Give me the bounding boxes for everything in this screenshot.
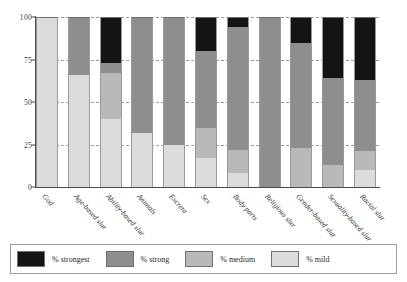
legend-item[interactable]: % mild (271, 251, 329, 267)
bar-segment-strongest (195, 17, 217, 51)
bar-segment-strong (227, 27, 249, 149)
y-tick-label: 50 (0, 98, 32, 107)
y-tick-label: 25 (0, 140, 32, 149)
bar-segment-strong (68, 17, 90, 75)
bar-segment-strong (259, 17, 281, 187)
bar-segment-strong (163, 17, 185, 145)
x-label-wrap: Body parts (227, 190, 249, 250)
legend-swatch (106, 251, 134, 267)
bar-segment-strongest (227, 17, 249, 27)
x-label-wrap: Racial slur (354, 190, 376, 250)
y-tick-mark (31, 102, 35, 103)
x-axis-label: Excreta (167, 192, 189, 215)
bar-segment-mild (68, 75, 90, 187)
legend-label: % mild (306, 255, 329, 264)
bar-segment-strongest (322, 17, 344, 78)
chart-figure: 0255075100 GodAge-based slurAbility-base… (0, 0, 407, 282)
legend-swatch (185, 251, 213, 267)
x-label-wrap: Sexuality-based slur (322, 190, 344, 250)
bar-sex[interactable] (195, 17, 217, 187)
bar-segment-strong (354, 80, 376, 151)
bar-segment-mild (163, 145, 185, 188)
x-label-wrap: Age-based slur (68, 190, 90, 250)
bar-segment-strongest (354, 17, 376, 80)
x-axis-label: Animals (136, 192, 159, 216)
bar-sexuality-based-slur[interactable] (322, 17, 344, 187)
bar-gender-based-slur[interactable] (290, 17, 312, 187)
bar-segment-strongest (100, 17, 122, 63)
chart-legend: % strongest% strong% medium% mild (10, 244, 397, 274)
legend-label: % strongest (52, 255, 90, 264)
bar-segment-mild (354, 170, 376, 187)
x-axis-line (35, 187, 380, 188)
bar-segment-medium (195, 128, 217, 159)
bar-segment-medium (354, 151, 376, 170)
legend-label: % medium (220, 255, 255, 264)
plot-area (36, 17, 376, 187)
bar-segment-mild (195, 158, 217, 187)
x-label-wrap: Gender-based slur (290, 190, 312, 250)
y-tick-label: 0 (0, 183, 32, 192)
y-tick-mark (31, 59, 35, 60)
bar-racial-slur[interactable] (354, 17, 376, 187)
bar-segment-mild (100, 119, 122, 187)
bar-segment-medium (100, 73, 122, 119)
x-label-wrap: God (36, 190, 58, 250)
bar-segment-medium (227, 150, 249, 174)
bar-god[interactable] (36, 17, 58, 187)
x-axis-label: God (40, 192, 55, 208)
x-axis-label: Sex (199, 192, 213, 206)
legend-swatch (271, 251, 299, 267)
legend-swatch (17, 251, 45, 267)
bar-segment-strong (131, 17, 153, 133)
x-label-wrap: Ability-based slur (100, 190, 122, 250)
y-tick-mark (31, 17, 35, 18)
y-tick-label: 75 (0, 55, 32, 64)
legend-item[interactable]: % strong (106, 251, 170, 267)
bar-group (36, 17, 376, 187)
y-tick-mark (31, 144, 35, 145)
bar-segment-strongest (290, 17, 312, 43)
bar-segment-strong (322, 78, 344, 165)
x-axis-label: Body parts (231, 192, 260, 222)
legend-item[interactable]: % medium (185, 251, 255, 267)
bar-excreta[interactable] (163, 17, 185, 187)
x-label-wrap: Religious slur (259, 190, 281, 250)
legend-item[interactable]: % strongest (17, 251, 90, 267)
x-label-wrap: Excreta (163, 190, 185, 250)
bar-segment-strong (290, 43, 312, 148)
bar-ability-based-slur[interactable] (100, 17, 122, 187)
bar-body-parts[interactable] (227, 17, 249, 187)
bar-segment-mild (227, 173, 249, 187)
legend-label: % strong (141, 255, 170, 264)
bar-segment-strong (195, 51, 217, 128)
y-tick-label: 100 (0, 13, 32, 22)
y-tick-mark (31, 187, 35, 188)
bar-animals[interactable] (131, 17, 153, 187)
x-label-wrap: Animals (131, 190, 153, 250)
bar-segment-mild (131, 133, 153, 187)
x-label-wrap: Sex (195, 190, 217, 250)
bar-segment-strong (100, 63, 122, 73)
x-axis-label: Racial slur (358, 192, 387, 223)
bar-segment-medium (322, 165, 344, 187)
bar-age-based-slur[interactable] (68, 17, 90, 187)
bar-segment-medium (290, 148, 312, 187)
bar-segment-mild (36, 17, 58, 187)
x-axis-labels: GodAge-based slurAbility-based slurAnima… (36, 190, 376, 250)
bar-religious-slur[interactable] (259, 17, 281, 187)
